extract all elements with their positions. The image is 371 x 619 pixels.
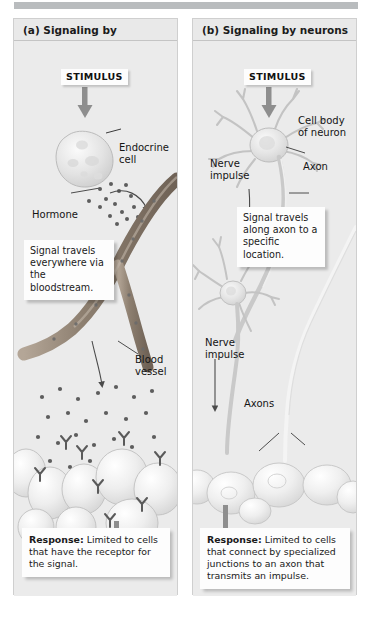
panel-a-header: (a) Signaling by hormones (14, 19, 177, 41)
stimulus-label-a: STIMULUS (61, 69, 128, 85)
panel-b-header: (b) Signaling by neurons (193, 19, 356, 41)
hormone-signaling-illustration (14, 41, 177, 596)
response-b-lead: Response: (207, 534, 262, 545)
panel-a-body: STIMULUS Endocrine cell Hormone Blood ve… (14, 41, 177, 596)
stimulus-arrow-a (78, 87, 93, 118)
response-box-hormones: Response: Limited to cells that have the… (22, 528, 170, 577)
label-nerve-impulse-lower: Nerve impulse (205, 337, 244, 360)
label-cell-body-of-neuron: Cell body of neuron (298, 115, 346, 138)
top-rule (14, 2, 358, 9)
endocrine-cell (56, 131, 113, 187)
callout-neuron-signal: Signal travels along axon to a specific … (237, 207, 325, 267)
label-axons: Axons (244, 398, 274, 410)
label-hormone: Hormone (32, 209, 78, 221)
target-cells-neuron (193, 463, 356, 524)
response-box-neurons: Response: Limited to cells that connect … (200, 528, 350, 589)
panel-signaling-by-neurons: (b) Signaling by neurons (192, 18, 357, 595)
label-blood-vessel: Blood vessel (135, 354, 166, 377)
label-nerve-impulse-upper: Nerve impulse (210, 158, 249, 181)
panel-signaling-by-hormones: (a) Signaling by hormones (13, 18, 178, 595)
stimulus-label-b: STIMULUS (244, 69, 311, 85)
callout-hormone-signal: Signal travels everywhere via the bloods… (24, 240, 114, 300)
label-endocrine-cell: Endocrine cell (119, 142, 169, 165)
label-axon: Axon (303, 161, 328, 173)
response-a-lead: Response: (29, 534, 84, 545)
stimulus-arrow-b (262, 87, 277, 118)
